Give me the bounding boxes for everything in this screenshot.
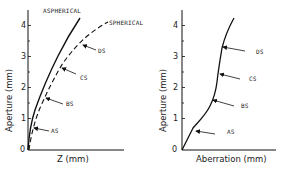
as-label: AS — [51, 127, 59, 134]
ds-arrow — [83, 45, 96, 50]
right-y-label: Aperture (mm) — [158, 69, 168, 132]
right-tick-0: 0 — [172, 145, 177, 154]
right-tick-4: 4 — [173, 21, 178, 30]
bs-arrow-right — [213, 100, 234, 106]
as-arrow — [34, 128, 49, 131]
left-tick-2: 2 — [21, 83, 26, 92]
as-arrow-right — [196, 131, 215, 134]
ds-label-right: DS — [256, 48, 264, 55]
left-x-label: Z (mm) — [57, 154, 89, 164]
left-tick-3: 3 — [21, 52, 26, 61]
right-tick-1: 1 — [173, 114, 178, 123]
bs-label-right: BS — [241, 102, 249, 109]
right-chart: 0 1 2 3 4 Aperture (mm) Aberration (mm) … — [158, 10, 276, 164]
left-tick-0: 0 — [20, 145, 25, 154]
spherical-label: SPHERICAL — [109, 19, 143, 26]
bs-arrow — [46, 98, 63, 104]
left-chart: 0 1 2 3 4 Aperture (mm) Z (mm) ASPHERICA… — [4, 7, 143, 164]
cs-label-right: CS — [249, 75, 257, 82]
right-x-label: Aberration (mm) — [196, 154, 267, 164]
cs-arrow — [62, 68, 76, 74]
aspherical-label: ASPHERICAL — [43, 7, 81, 14]
figure: 0 1 2 3 4 Aperture (mm) Z (mm) ASPHERICA… — [0, 0, 284, 170]
ds-label: DS — [98, 47, 106, 54]
left-tick-4: 4 — [21, 21, 26, 30]
spherical-curve — [29, 22, 108, 150]
bs-label: BS — [66, 100, 74, 107]
cs-label: CS — [80, 74, 88, 81]
ds-arrow-right — [223, 47, 245, 51]
left-y-label: Aperture (mm) — [4, 69, 14, 132]
left-tick-1: 1 — [21, 114, 26, 123]
right-tick-3: 3 — [173, 52, 178, 61]
as-label-right: AS — [227, 128, 235, 135]
cs-arrow-right — [220, 74, 240, 79]
right-tick-2: 2 — [173, 83, 178, 92]
